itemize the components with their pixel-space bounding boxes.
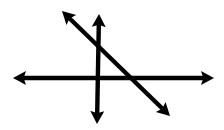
figure-canvas: Three intersecting double-headed arrow l… (0, 0, 224, 130)
intersecting-lines-figure: Three intersecting double-headed arrow l… (0, 0, 224, 130)
figure-background (0, 0, 224, 130)
vertical-line-shaft (97, 24, 99, 113)
